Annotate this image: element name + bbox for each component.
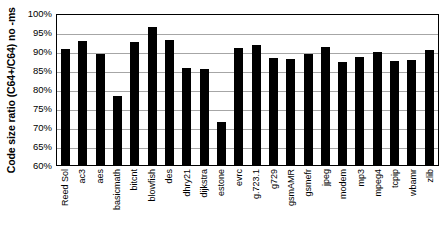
bar-slot xyxy=(109,15,126,165)
bar xyxy=(130,42,139,165)
bars-container xyxy=(57,15,438,165)
bar-slot xyxy=(421,15,438,165)
bar-slot xyxy=(57,15,74,165)
y-axis-tick-label: 95% xyxy=(33,28,52,38)
bar-slot xyxy=(334,15,351,165)
bar xyxy=(425,50,434,165)
x-axis-tick-label-slot: gsmefr xyxy=(300,167,317,234)
y-axis-title-label: Code size ratio (C64+/C64) no -ms xyxy=(6,7,17,173)
x-axis-tick-label: modem xyxy=(339,169,348,199)
x-axis-tick-label: gsmAMR xyxy=(286,169,295,206)
x-axis-tick-label: Reed Sol xyxy=(60,169,69,206)
bar-slot xyxy=(265,15,282,165)
bar xyxy=(78,41,87,165)
bar xyxy=(165,40,174,165)
x-axis-tick-label: evrc xyxy=(234,169,243,186)
x-axis-tick-label: dijkstra xyxy=(199,169,208,198)
bar-slot xyxy=(74,15,91,165)
bar xyxy=(390,61,399,165)
x-axis-tick-label-slot: g.723.1 xyxy=(247,167,264,234)
x-axis-tick-label: mpeg4 xyxy=(374,169,383,197)
plot-area xyxy=(56,14,439,166)
x-axis-tick-label-slot: Reed Sol xyxy=(56,167,73,234)
bar xyxy=(252,45,261,165)
bar-slot xyxy=(178,15,195,165)
x-axis-tick-label: jpeg xyxy=(321,169,330,186)
x-axis-tick-label: g.723.1 xyxy=(252,169,261,199)
x-axis-tick-label-slot: blowfish xyxy=(143,167,160,234)
bar-slot xyxy=(351,15,368,165)
bar xyxy=(373,52,382,165)
x-axis-tick-label-slot: wbamr xyxy=(404,167,421,234)
bar xyxy=(269,58,278,165)
x-axis-tick-label-slot: jpeg xyxy=(317,167,334,234)
x-axis-tick-label-slot: bitcnt xyxy=(126,167,143,234)
x-axis-tick-label: des xyxy=(165,169,174,184)
x-axis-tick-label-slot: zlib xyxy=(422,167,439,234)
x-axis-tick-label-slot: gsmAMR xyxy=(282,167,299,234)
bar xyxy=(200,69,209,165)
x-axis-tick-label-slot: tcpip xyxy=(387,167,404,234)
bar xyxy=(182,68,191,165)
bar xyxy=(61,49,70,165)
y-axis-title: Code size ratio (C64+/C64) no -ms xyxy=(0,0,22,180)
y-axis-tick-label: 65% xyxy=(33,142,52,152)
x-axis-tick-label-slot: evrc xyxy=(230,167,247,234)
x-axis-tick-label: wbamr xyxy=(408,169,417,196)
x-axis-tick-label-slot: aes xyxy=(91,167,108,234)
x-axis-tick-label: mp3 xyxy=(356,169,365,187)
y-axis-tick-labels: 100%95%90%85%80%75%70%65%60% xyxy=(20,14,54,166)
bar-slot xyxy=(282,15,299,165)
bar-slot xyxy=(369,15,386,165)
bar-slot xyxy=(126,15,143,165)
y-axis-tick-label: 75% xyxy=(33,104,52,114)
x-axis-tick-label: bitcnt xyxy=(130,169,139,191)
x-axis-tick-label-slot: basicmath xyxy=(108,167,125,234)
bar xyxy=(338,62,347,165)
bar xyxy=(96,54,105,165)
x-axis-tick-label: blowfish xyxy=(147,169,156,202)
x-axis-tick-label: dhry21 xyxy=(182,169,191,197)
bar-slot xyxy=(317,15,334,165)
bar-slot xyxy=(299,15,316,165)
x-axis-tick-label: gsmefr xyxy=(304,169,313,197)
bar-chart-figure: Code size ratio (C64+/C64) no -ms 100%95… xyxy=(0,0,445,234)
bar xyxy=(321,47,330,165)
bar xyxy=(217,122,226,165)
x-axis-tick-label-slot: mpeg4 xyxy=(369,167,386,234)
y-axis-tick-label: 60% xyxy=(33,161,52,171)
bar xyxy=(148,27,157,165)
bar-slot xyxy=(247,15,264,165)
x-axis-tick-label-slot: g729 xyxy=(265,167,282,234)
x-axis-tick-label-slot: dijkstra xyxy=(195,167,212,234)
bar-slot xyxy=(196,15,213,165)
x-axis-tick-label-slot: des xyxy=(160,167,177,234)
bar-slot xyxy=(213,15,230,165)
bar xyxy=(304,54,313,165)
y-axis-tick-label: 70% xyxy=(33,123,52,133)
x-axis-tick-label-slot: ac3 xyxy=(73,167,90,234)
x-axis-tick-label: tcpip xyxy=(391,169,400,188)
x-axis-tick-label-slot: mp3 xyxy=(352,167,369,234)
bar xyxy=(286,59,295,165)
bar-slot xyxy=(161,15,178,165)
x-axis-tick-label: aes xyxy=(95,169,104,184)
bar-slot xyxy=(386,15,403,165)
bar xyxy=(113,96,122,165)
x-axis-tick-label-slot: estone xyxy=(213,167,230,234)
bar-slot xyxy=(144,15,161,165)
x-axis-tick-label: estone xyxy=(217,169,226,196)
bar-slot xyxy=(92,15,109,165)
x-axis-tick-label: g729 xyxy=(269,169,278,189)
x-axis-tick-label-slot: dhry21 xyxy=(178,167,195,234)
y-axis-tick-label: 80% xyxy=(33,85,52,95)
bar xyxy=(234,48,243,165)
x-axis-tick-label-slot: modem xyxy=(335,167,352,234)
bar-slot xyxy=(403,15,420,165)
x-axis-tick-label: basicmath xyxy=(112,169,121,210)
y-axis-tick-label: 100% xyxy=(28,9,52,19)
y-axis-tick-label: 90% xyxy=(33,47,52,57)
y-axis-tick-label: 85% xyxy=(33,66,52,76)
bar-slot xyxy=(230,15,247,165)
x-axis-tick-label: zlib xyxy=(426,169,435,183)
